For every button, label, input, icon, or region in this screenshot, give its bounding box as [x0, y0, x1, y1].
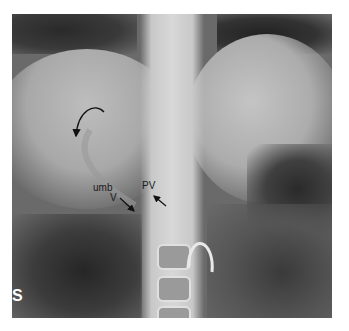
annotation-overlay [0, 0, 349, 331]
side-marker: S [12, 287, 23, 305]
pv-arrow-icon [154, 196, 166, 206]
pv-label: PV [142, 181, 155, 191]
v-label: V [110, 193, 117, 203]
catheter-loop [188, 243, 212, 272]
